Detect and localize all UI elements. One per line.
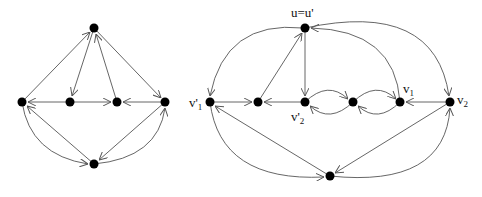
node-M2 — [113, 98, 122, 107]
node-u — [301, 24, 310, 33]
edge-M2-top — [96, 34, 117, 102]
node-v1 — [396, 98, 405, 107]
label-v2: v2 — [457, 92, 468, 109]
edge-R-B — [99, 102, 165, 160]
node-bot — [326, 172, 335, 181]
node-v1p — [206, 98, 215, 107]
edge-mid-u — [258, 33, 302, 102]
right-graph: u=u' v'1 v'2 v1 v2 — [189, 5, 468, 181]
edge-u-v2-arc — [305, 22, 449, 96]
edge-c-v1-upper — [353, 90, 396, 102]
edge-B-L — [27, 106, 94, 164]
node-R — [161, 98, 170, 107]
edge-top-M1 — [72, 28, 94, 96]
edge-v2p-c-upper — [305, 90, 348, 102]
edge-v2-bot — [335, 102, 450, 173]
left-graph — [18, 24, 170, 169]
edge-bot-v1p — [215, 106, 330, 176]
node-mid — [254, 98, 263, 107]
node-top — [90, 24, 99, 33]
edge-top-R — [94, 28, 161, 98]
label-u: u=u' — [291, 5, 314, 20]
node-v2p — [301, 98, 310, 107]
node-L — [18, 98, 27, 107]
edge-c-v2p-lower — [310, 102, 353, 114]
edge-bot-v2-curve — [330, 108, 450, 178]
graph-diagram: u=u' v'1 v'2 v1 v2 — [0, 0, 482, 197]
node-c — [349, 98, 358, 107]
edge-L-top — [22, 32, 90, 102]
edge-v1-c-lower — [358, 102, 400, 114]
edge-L-B-curve — [22, 102, 88, 164]
label-v1: v1 — [403, 81, 414, 98]
edge-u-v1p-arc — [210, 27, 303, 96]
label-v2p: v'2 — [291, 109, 304, 126]
label-v1p: v'1 — [189, 95, 202, 112]
node-M1 — [66, 98, 75, 107]
node-B — [90, 160, 99, 169]
node-v2 — [446, 98, 455, 107]
